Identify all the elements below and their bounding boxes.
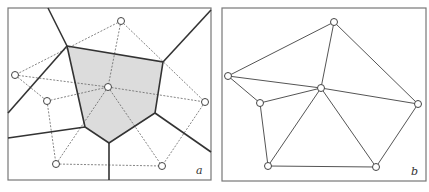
site-point — [105, 84, 112, 91]
site-point — [225, 73, 232, 80]
panel-frame — [222, 8, 426, 181]
site-point — [373, 164, 380, 171]
site-point — [265, 163, 272, 170]
panel-b-label: b — [411, 165, 418, 178]
site-point — [53, 161, 60, 168]
panel-b-delaunay — [222, 8, 426, 181]
site-point — [331, 19, 338, 26]
site-point — [415, 101, 422, 108]
site-point — [318, 85, 325, 92]
site-point — [159, 163, 166, 170]
site-point — [257, 100, 264, 107]
voronoi-delaunay-diagram: a b — [0, 0, 429, 192]
site-point — [118, 18, 125, 25]
site-point — [12, 72, 19, 79]
panel-a-label: a — [196, 164, 203, 177]
site-point — [44, 98, 51, 105]
site-point — [202, 99, 209, 106]
panel-a-voronoi — [8, 8, 211, 180]
